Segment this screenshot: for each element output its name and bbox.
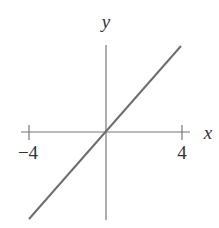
tick-label-neg4: −4: [18, 142, 39, 163]
chart-canvas: y x −4 4: [0, 0, 219, 228]
y-axis-label: y: [100, 11, 111, 32]
tick-label-pos4: 4: [177, 142, 187, 163]
x-axis-label: x: [203, 122, 213, 143]
